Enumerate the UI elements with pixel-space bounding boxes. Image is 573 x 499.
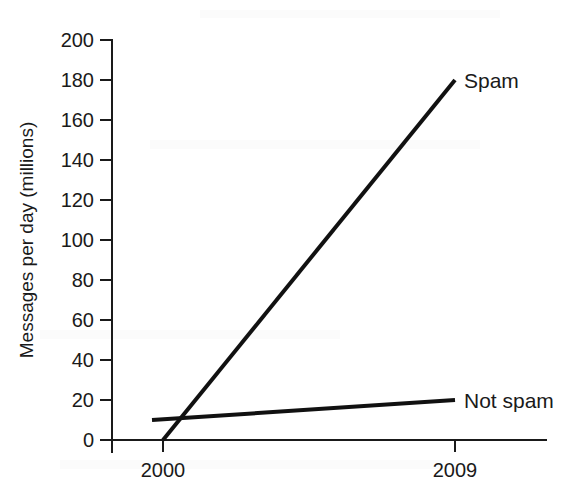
y-tick-label-100: 100	[61, 229, 94, 251]
series-not-spam: Not spam	[152, 389, 554, 420]
series-spam: Spam	[163, 69, 519, 440]
y-tick-label-0: 0	[83, 429, 94, 451]
chart-container: 200 180 160 140 120 100 80 60 40 20 0 Me…	[0, 0, 573, 499]
y-tick-label-80: 80	[72, 269, 94, 291]
y-tick-label-200: 200	[61, 29, 94, 51]
y-axis-tick-labels: 200 180 160 140 120 100 80 60 40 20 0	[61, 29, 94, 451]
not-spam-series-label: Not spam	[464, 389, 554, 412]
y-tick-label-120: 120	[61, 189, 94, 211]
y-axis-ticks	[100, 40, 112, 440]
x-tick-label-2000: 2000	[141, 459, 186, 481]
x-tick-label-2009: 2009	[433, 459, 478, 481]
y-tick-label-140: 140	[61, 149, 94, 171]
spam-line	[163, 80, 455, 440]
line-chart: 200 180 160 140 120 100 80 60 40 20 0 Me…	[0, 0, 573, 499]
y-tick-label-20: 20	[72, 389, 94, 411]
x-axis-ticks	[163, 440, 455, 452]
not-spam-line	[152, 400, 455, 420]
y-axis-title: Messages per day (millions)	[16, 122, 37, 359]
y-tick-label-40: 40	[72, 349, 94, 371]
y-axis: 200 180 160 140 120 100 80 60 40 20 0 Me…	[16, 29, 112, 452]
y-tick-label-160: 160	[61, 109, 94, 131]
spam-series-label: Spam	[464, 69, 519, 92]
y-tick-label-60: 60	[72, 309, 94, 331]
y-tick-label-180: 180	[61, 69, 94, 91]
